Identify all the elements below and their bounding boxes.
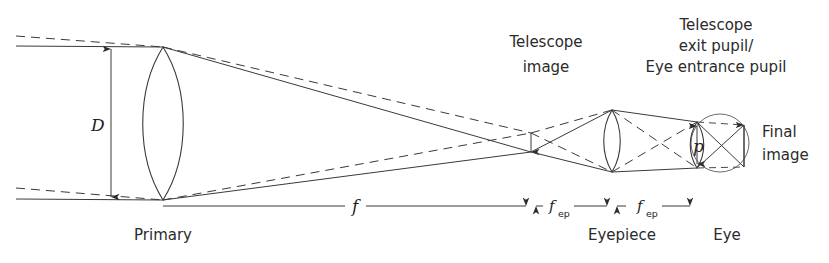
fep2-dim-label: f (636, 197, 645, 215)
incoming-ray-bundle-on-axis (16, 46, 163, 200)
pupil-diameter-label: p (693, 136, 704, 156)
diverging-beam-to-eyepiece (531, 110, 612, 172)
converging-beam-off-axis (163, 47, 531, 200)
exit-pupil-caption-line3: Eye entrance pupil (646, 58, 787, 76)
exit-pupil-caption: Telescope exit pupil/ Eye entrance pupil (646, 16, 787, 76)
converging-ray-dashed-from-bottom (163, 133, 531, 200)
beam-eyepiece-to-exit-pupil (612, 110, 697, 172)
primary-lens-label: Primary (134, 226, 192, 244)
primary-lens (143, 47, 184, 200)
fep2-dim-label-subscript: ep (646, 208, 658, 219)
final-image-label-line1: Final (762, 123, 797, 141)
aperture-dimension-D: D (90, 49, 111, 197)
diverging-ray-solid-up (531, 110, 612, 152)
incoming-ray-bundle-off-axis (16, 36, 163, 200)
eye-label: Eye (713, 226, 741, 244)
telescope-image-label: Telescope image (508, 33, 582, 76)
eyepiece-lens-label: Eyepiece (588, 226, 656, 244)
exitpupil-ray-dashed-cross-down (612, 110, 697, 168)
exitpupil-ray-solid-top (612, 110, 697, 122)
diagram-canvas: D Primary Telescope image (0, 0, 829, 263)
telescope-image-label-line1: Telescope (508, 33, 582, 51)
diverging-ray-dashed-up (531, 110, 612, 133)
fep1-dim-label-subscript: ep (558, 208, 570, 219)
eyepiece-lens (604, 110, 621, 172)
diverging-ray-solid-down (531, 152, 612, 172)
retina-ray-dashed-top (697, 122, 744, 125)
dimension-focal-length-primary: f (163, 196, 526, 216)
exit-pupil-caption-line2: exit pupil/ (679, 37, 755, 55)
final-image-label: Final image (762, 123, 809, 164)
fep1-dim-label: f (548, 197, 557, 215)
converging-ray-solid-from-bottom (163, 152, 531, 200)
exit-pupil-lens: p (690, 122, 704, 168)
exitpupil-ray-dashed-cross-up (612, 122, 697, 172)
incoming-ray-dashed-bottom (16, 188, 163, 200)
converging-ray-dashed-from-top (163, 47, 531, 133)
primary-lens-shape (143, 47, 184, 200)
converging-ray-solid-from-top (163, 47, 531, 152)
diverging-ray-dashed-down (531, 133, 612, 172)
f-dim-label: f (350, 196, 361, 216)
exit-pupil-caption-line1: Telescope (678, 16, 752, 34)
final-image-label-line2: image (762, 146, 809, 164)
exitpupil-ray-solid-bottom (612, 168, 697, 172)
aperture-diameter-label: D (90, 115, 105, 135)
optical-ray-diagram: D Primary Telescope image (0, 0, 829, 263)
incoming-ray-dashed-top (16, 36, 163, 47)
incoming-ray-solid-top (16, 46, 163, 47)
telescope-image-label-line2: image (523, 58, 570, 76)
dimension-focal-length-eyepiece-image-side: f ep (536, 197, 607, 219)
eyepiece-lens-shape (604, 110, 621, 172)
dimension-focal-length-eyepiece-pupil-side: f ep (617, 197, 690, 219)
converging-beam-on-axis (163, 47, 531, 200)
incoming-ray-solid-bottom (16, 199, 163, 200)
